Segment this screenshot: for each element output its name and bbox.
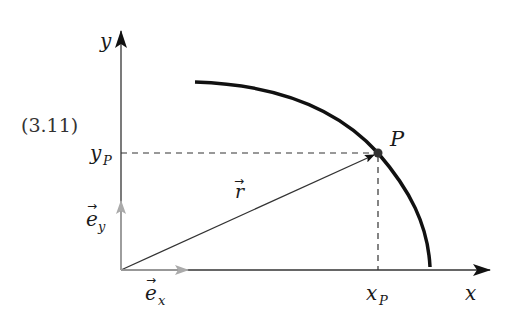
svg-text:x: x [366,281,377,305]
svg-text:→: → [234,174,244,188]
r-label: r → [234,174,246,202]
svg-text:P: P [378,293,388,308]
svg-text:→: → [87,199,97,213]
y-p-label: y P [89,141,112,168]
point-p [374,149,383,158]
point-p-label: P [389,127,405,151]
svg-text:P: P [102,153,112,168]
svg-text:x: x [158,293,166,308]
y-axis-label: y [99,29,112,53]
curve-arc [195,82,430,267]
x-axis-label: x [465,281,476,305]
svg-text:y: y [89,141,102,165]
ex-label: e x → [145,273,166,308]
svg-text:→: → [146,273,156,287]
position-vector-r [121,155,374,270]
svg-text:y: y [97,219,106,234]
x-p-label: x P [366,281,388,308]
coordinate-diagram: (3.11) y x r → e x → e y → P y P x P [0,0,513,309]
equation-number: (3.11) [21,114,78,136]
ey-label: e y → [86,199,106,234]
